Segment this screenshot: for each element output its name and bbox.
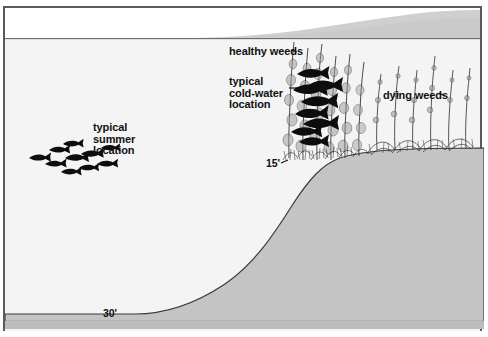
diagram-frame: healthy weeds typical cold-water locatio… (3, 6, 482, 331)
label-healthy-weeds: healthy weeds (229, 46, 303, 58)
label-cold-water-location: typical cold-water location (229, 76, 283, 111)
depth-tick-15 (281, 160, 288, 163)
label-summer-location: typical summer location (93, 122, 135, 157)
depth-marker-15: 15' (266, 158, 280, 170)
lake-bottom-slope (5, 148, 484, 329)
depth-marker-30: 30' (103, 308, 117, 320)
weedbed-dying (367, 56, 473, 155)
lake-cross-section-diagram: healthy weeds typical cold-water locatio… (0, 0, 488, 337)
label-dying-weeds: dying weeds (383, 90, 448, 102)
